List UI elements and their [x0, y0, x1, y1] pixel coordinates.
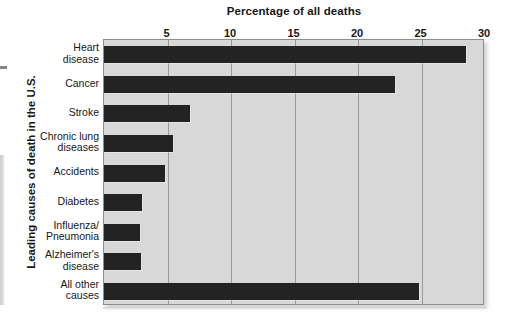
y-label-diabetes: Diabetes — [0, 187, 99, 217]
y-axis-category-labels: HeartdiseaseCancerStrokeChronic lungdise… — [0, 39, 99, 305]
bar-row — [104, 76, 483, 93]
x-tick-label-10: 10 — [224, 27, 236, 39]
y-axis-title-wrap: Leading causes of death in the U.S. — [22, 39, 40, 305]
y-label-all-other-causes: All othercauses — [0, 275, 99, 305]
plot-area — [103, 39, 484, 305]
bar-chronic-lung-diseases — [104, 135, 173, 152]
bar-row — [104, 194, 483, 211]
x-tick-label-20: 20 — [351, 27, 363, 39]
y-label-cancer: Cancer — [0, 69, 99, 99]
bar-diabetes — [104, 194, 142, 211]
chart-title: Percentage of all deaths — [103, 5, 485, 17]
y-label-accidents: Accidents — [0, 157, 99, 187]
bar-accidents — [104, 165, 165, 182]
y-label-stroke: Stroke — [0, 98, 99, 128]
bar-row — [104, 135, 483, 152]
page-edge-shadow — [103, 307, 487, 310]
y-label-chronic-lung-diseases: Chronic lungdiseases — [0, 128, 99, 158]
bar-influenza-pneumonia — [104, 224, 140, 241]
bar-alzheimer-s-disease — [104, 253, 141, 270]
bars-layer — [104, 40, 483, 304]
bar-stroke — [104, 105, 190, 122]
bar-row — [104, 253, 483, 270]
y-label-influenza-pneumonia: Influenza/Pneumonia — [0, 216, 99, 246]
bar-heart-disease — [104, 46, 466, 63]
bar-row — [104, 165, 483, 182]
y-axis-title: Leading causes of death in the U.S. — [25, 75, 37, 269]
y-label-heart-disease: Heartdisease — [0, 39, 99, 69]
x-tick-label-25: 25 — [414, 27, 426, 39]
bar-all-other-causes — [104, 283, 419, 300]
bar-row — [104, 105, 483, 122]
y-label-alzheimer-s-disease: Alzheimer'sdisease — [0, 246, 99, 276]
bar-row — [104, 283, 483, 300]
bar-row — [104, 224, 483, 241]
x-tick-label-30: 30 — [478, 27, 490, 39]
bar-cancer — [104, 76, 395, 93]
bar-chart-figure: Percentage of all deaths 51015202530 Hea… — [0, 0, 507, 326]
x-tick-label-15: 15 — [287, 27, 299, 39]
bar-row — [104, 46, 483, 63]
x-tick-label-5: 5 — [163, 27, 169, 39]
